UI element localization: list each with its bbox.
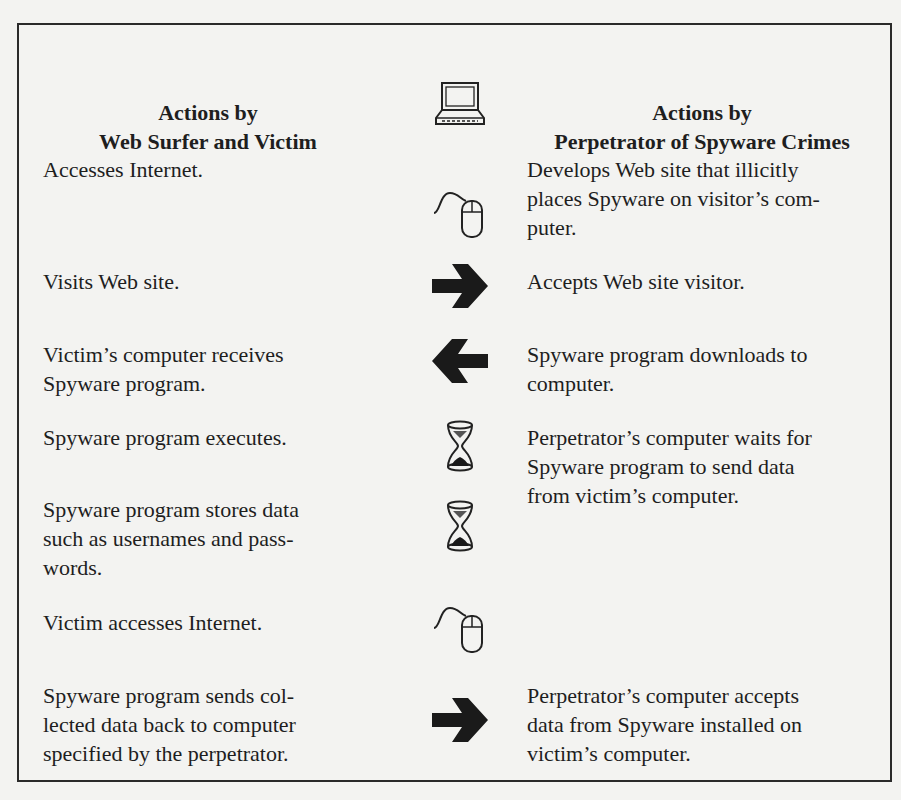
computer-icon [420,80,500,128]
header-line: Perpetrator of Spyware Crimes [527,127,877,156]
text-line: places Spyware on visitor’s com- [527,184,872,213]
arrow-right-icon [420,262,500,310]
victim-action-0: Accesses Internet. [43,155,373,184]
text-line: victim’s computer. [527,739,872,768]
header-line: Actions by [43,98,373,127]
victim-action-5: Spyware program stores data such as user… [43,495,373,582]
mouse-icon [420,185,500,241]
hourglass-icon [420,500,500,552]
text-line: from victim’s computer. [527,481,872,510]
text-line: puter. [527,213,872,242]
perpetrator-action-7: Perpetrator’s computer accepts data from… [527,681,872,768]
text-line: Accepts Web site visitor. [527,267,872,296]
perpetrator-action-1: Develops Web site that illicitly places … [527,155,872,242]
left-column-header: Actions by Web Surfer and Victim [43,98,373,156]
mouse-icon [420,600,500,656]
text-line: Spyware program stores data [43,495,373,524]
header-line: Web Surfer and Victim [43,127,373,156]
hourglass-icon [420,420,500,472]
victim-action-2: Visits Web site. [43,267,373,296]
perpetrator-action-4: Perpetrator’s computer waits for Spyware… [527,423,872,510]
text-line: Perpetrator’s computer accepts [527,681,872,710]
text-line: data from Spyware installed on [527,710,872,739]
text-line: such as usernames and pass- [43,524,373,553]
text-line: Victim accesses Internet. [43,608,373,637]
victim-action-6: Victim accesses Internet. [43,608,373,637]
text-line: Spyware program. [43,369,373,398]
right-column-header: Actions by Perpetrator of Spyware Crimes [527,98,877,156]
arrow-left-icon [420,337,500,385]
header-line: Actions by [527,98,877,127]
text-line: lected data back to computer [43,710,373,739]
text-line: words. [43,553,373,582]
text-line: Victim’s computer receives [43,340,373,369]
text-line: Develops Web site that illicitly [527,155,872,184]
text-line: Spyware program executes. [43,423,373,452]
victim-action-7: Spyware program sends col- lected data b… [43,681,373,768]
perpetrator-action-3: Spyware program downloads to computer. [527,340,872,398]
victim-action-3: Victim’s computer receives Spyware progr… [43,340,373,398]
text-line: Perpetrator’s computer waits for [527,423,872,452]
text-line: Spyware program to send data [527,452,872,481]
text-line: Accesses Internet. [43,155,373,184]
victim-action-4: Spyware program executes. [43,423,373,452]
text-line: Spyware program downloads to [527,340,872,369]
arrow-right-icon [420,696,500,744]
text-line: Spyware program sends col- [43,681,373,710]
text-line: specified by the perpetrator. [43,739,373,768]
perpetrator-action-2: Accepts Web site visitor. [527,267,872,296]
text-line: Visits Web site. [43,267,373,296]
text-line: computer. [527,369,872,398]
